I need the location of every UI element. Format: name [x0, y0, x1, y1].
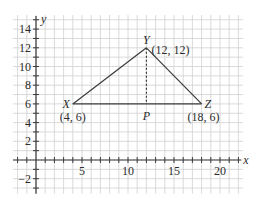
y-tick-label: 14 — [19, 22, 31, 36]
point-y-coords: (12, 12) — [151, 43, 189, 57]
x-tick-label: 20 — [214, 164, 226, 178]
point-z-coords: (18, 6) — [188, 110, 220, 124]
coordinate-diagram: 51015201412108642−2 x y X (4, 6) Y (12, … — [0, 0, 258, 198]
point-p-label: P — [142, 109, 151, 123]
x-tick-label: 10 — [122, 164, 134, 178]
x-axis-label: x — [242, 153, 249, 167]
x-tick-label: 5 — [79, 164, 85, 178]
y-tick-label: −2 — [18, 172, 31, 186]
y-tick-label: 8 — [25, 78, 31, 92]
y-axis-label: y — [40, 12, 47, 26]
y-tick-label: 2 — [25, 134, 31, 148]
y-tick-label: 4 — [25, 116, 31, 130]
point-y-label: Y — [143, 33, 151, 47]
x-tick-label: 15 — [168, 164, 180, 178]
point-x-label: X — [61, 97, 70, 111]
y-tick-label: 10 — [19, 60, 31, 74]
y-tick-label: 12 — [19, 41, 31, 55]
point-z-label: Z — [205, 97, 212, 111]
plot-canvas: 51015201412108642−2 x y X (4, 6) Y (12, … — [0, 0, 258, 198]
point-x-coords: (4, 6) — [60, 110, 86, 124]
labels: x y X (4, 6) Y (12, 12) Z (18, 6) P — [40, 12, 249, 167]
y-tick-label: 6 — [25, 97, 31, 111]
